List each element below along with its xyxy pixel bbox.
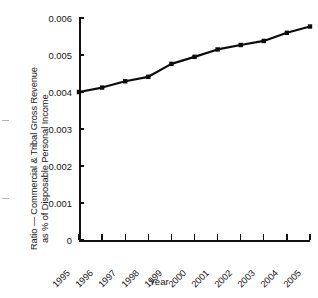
y-tick-label-text-1: 0.001: [49, 198, 72, 209]
data-point-1999: [169, 62, 173, 66]
chart-figure: Ratio — Commercial & Tribal Gross Revenu…: [0, 0, 318, 298]
data-point-2004: [285, 31, 289, 35]
y-tick-label-text-3: 0.003: [49, 124, 72, 135]
data-point-2001: [215, 47, 219, 51]
plot-area: 00.0010.0020.0030.0040.0050.006 19951996…: [79, 18, 310, 240]
data-point-1998: [146, 75, 150, 79]
data-point-1997: [123, 79, 127, 83]
data-point-2003: [262, 39, 266, 43]
y-tick-label-text-5: 0.005: [49, 50, 72, 61]
data-point-2005: [308, 24, 312, 28]
y-tick-label-text-4: 0.004: [49, 87, 72, 98]
y-tick-label-text-2: 0.002: [49, 161, 72, 172]
x-axis-line: [79, 240, 310, 242]
series-polyline: [79, 27, 310, 92]
data-point-2002: [239, 43, 243, 47]
y-tick-label-text-0: 0: [67, 235, 72, 246]
data-series-line: [79, 18, 310, 240]
y-axis-label-line-1: Ratio — Commercial & Tribal Gross Revenu…: [29, 67, 39, 250]
data-point-1995: [77, 90, 81, 94]
scan-artifact-left-upper: [2, 120, 9, 121]
data-point-1996: [100, 85, 104, 89]
scan-artifact-left-lower: [2, 198, 9, 199]
x-axis-title: Year: [0, 276, 318, 287]
y-tick-label-text-6: 0.006: [49, 13, 72, 24]
data-point-2000: [192, 55, 196, 59]
